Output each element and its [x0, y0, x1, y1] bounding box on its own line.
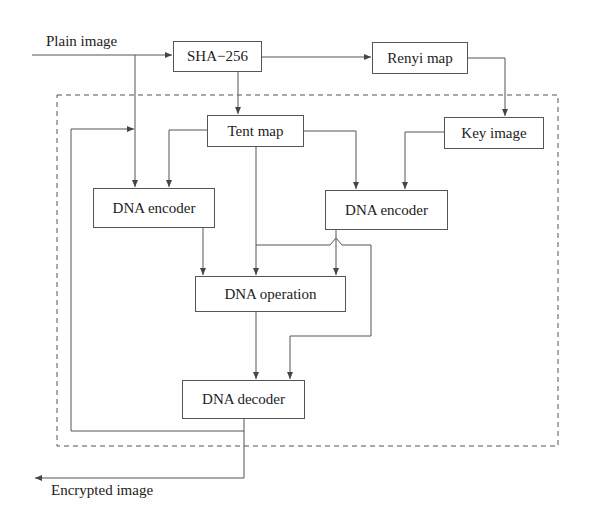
sha-256-node: SHA−256 — [173, 41, 262, 72]
encrypted-image-label: Encrypted image — [51, 482, 153, 499]
plain-image-label: Plain image — [46, 33, 117, 50]
dna-encoder-right-node: DNA encoder — [325, 190, 448, 230]
renyi-map-node: Renyi map — [372, 42, 468, 74]
key-image-node: Key image — [444, 117, 544, 149]
encryption-flowchart: Plain image SHA−256 Renyi map Key image … — [0, 0, 589, 517]
dna-operation-node: DNA operation — [195, 276, 346, 312]
dna-encoder-left-node: DNA encoder — [93, 188, 215, 228]
tent-map-node: Tent map — [207, 115, 304, 147]
dna-decoder-node: DNA decoder — [182, 380, 305, 419]
connector-lines — [0, 0, 589, 517]
